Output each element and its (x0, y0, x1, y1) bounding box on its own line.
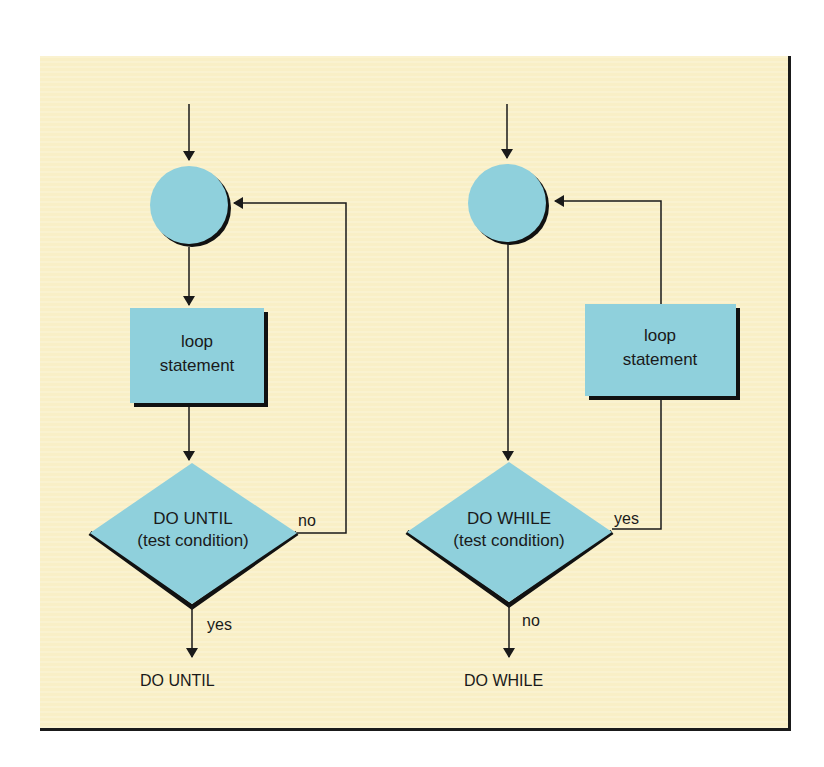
loop-back-line-upper (555, 201, 661, 304)
flowchart: loop statement DO UNTIL (test condition)… (0, 0, 824, 767)
do-until-flow: loop statement DO UNTIL (test condition)… (90, 104, 346, 689)
decision-line1: DO UNTIL (153, 509, 232, 528)
branch-back-label: yes (614, 510, 639, 527)
decision-line1: DO WHILE (467, 509, 551, 528)
decision-line2: (test condition) (137, 531, 249, 550)
loop-box-line2: statement (160, 356, 235, 375)
junction-circle (468, 164, 546, 242)
decision-line2: (test condition) (453, 531, 565, 550)
branch-exit-label: yes (207, 616, 232, 633)
loop-box-line1: loop (644, 326, 676, 345)
loop-box-line1: loop (181, 332, 213, 351)
do-while-flow: DO WHILE (test condition) yes loop state… (407, 104, 740, 689)
branch-back-label: no (298, 512, 316, 529)
exit-label: DO WHILE (464, 672, 543, 689)
exit-label: DO UNTIL (140, 672, 215, 689)
junction-circle (150, 166, 228, 244)
loop-box-line2: statement (623, 350, 698, 369)
branch-exit-label: no (522, 612, 540, 629)
